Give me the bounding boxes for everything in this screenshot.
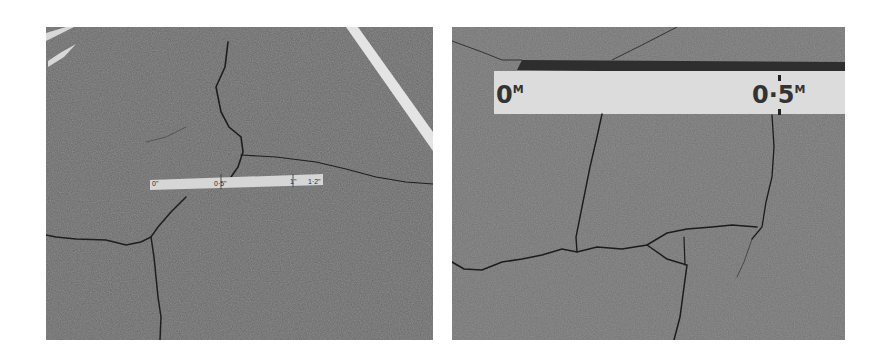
ruler-unit: M	[513, 83, 524, 96]
ruler-label-0-5: 0·5"	[214, 180, 227, 187]
photo-right-pavement: 0M 0·5M	[452, 27, 845, 340]
pavement-left-image	[46, 27, 433, 340]
ruler-value-0: 0	[496, 81, 513, 109]
ruler-label-0: 0"	[152, 180, 158, 187]
ruler-label-0m: 0M	[496, 81, 524, 109]
ruler-label-1-2: 1·2"	[308, 178, 321, 185]
pavement-right-image	[452, 27, 845, 340]
ruler-value-0-5: 0·5	[752, 81, 795, 109]
photo-left-pavement: 0" 0·5" 1" 1·2"	[46, 27, 433, 340]
ruler-label-0-5m: 0·5M	[752, 81, 805, 109]
ruler-label-1: 1"	[290, 178, 296, 185]
ruler-unit: M	[795, 83, 806, 96]
